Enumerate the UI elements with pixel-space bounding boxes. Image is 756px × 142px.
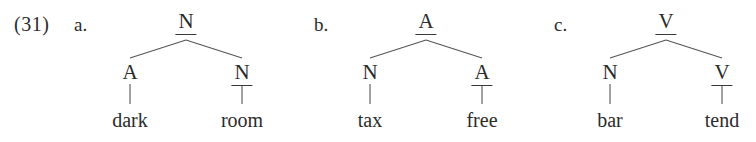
tree-c-right-node: V	[711, 62, 732, 86]
tree-c-right-word: tend	[705, 110, 739, 130]
tree-a-left-word: dark	[112, 110, 148, 130]
branch-right	[426, 40, 482, 58]
tree-b-root-node: A	[415, 11, 436, 35]
tree-a-left-node: A	[122, 62, 137, 85]
branch-right	[186, 40, 242, 58]
tree-b-right-word: free	[466, 110, 497, 130]
tree-c: c. V N V bar tend	[554, 0, 756, 142]
tree-a-root-node: N	[175, 11, 196, 35]
branch-left	[610, 40, 666, 58]
tree-a: a. N A N dark room	[74, 0, 314, 142]
tree-b: b. A N A tax free	[314, 0, 554, 142]
tree-b-left-node: N	[362, 62, 377, 85]
tree-c-left-word: bar	[597, 110, 623, 130]
tree-c-root-node: V	[655, 11, 676, 35]
branch-left	[370, 40, 426, 58]
tree-a-right-word: room	[221, 110, 263, 130]
example-number: (31)	[14, 13, 49, 36]
morphology-tree-figure: (31) a. N A N dark room b.	[0, 0, 756, 142]
branch-left	[130, 40, 186, 58]
tree-b-right-node: A	[471, 62, 492, 86]
tree-c-left-node: N	[602, 62, 617, 85]
tree-a-right-node: N	[231, 62, 252, 86]
tree-b-left-word: tax	[358, 110, 382, 130]
branch-right	[666, 40, 722, 58]
